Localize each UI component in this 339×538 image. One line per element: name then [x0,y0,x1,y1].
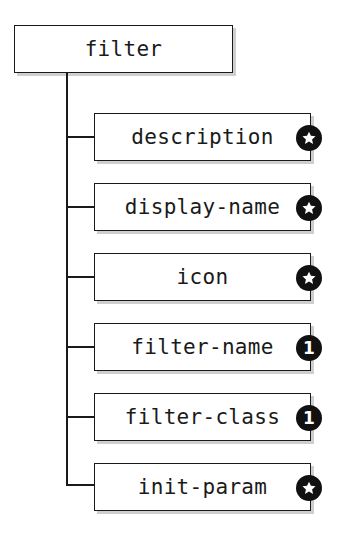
child-node-description: description [94,113,311,161]
branch-connector [66,136,94,138]
branch-connector [66,276,94,278]
child-node-display-name: display-name [94,183,311,231]
child-node-icon: icon [94,253,311,301]
star-badge-icon [296,195,322,221]
child-node-label: icon [177,265,229,289]
child-node-label: display-name [125,195,280,219]
child-node-label: init-param [138,475,267,499]
child-node-label: filter-name [131,335,273,359]
root-node-filter: filter [14,25,233,73]
branch-connector [66,206,94,208]
tree-trunk-line [66,73,68,486]
root-node-label: filter [85,37,163,61]
star-badge-icon [296,125,322,151]
one-badge-icon: 1 [296,405,322,431]
one-badge-icon: 1 [296,335,322,361]
child-node-init-param: init-param [94,463,311,511]
child-node-filter-class: filter-class [94,393,311,441]
branch-connector [66,416,94,418]
child-node-label: description [131,125,273,149]
badge-number: 1 [303,410,315,427]
branch-connector [66,484,94,486]
child-node-label: filter-class [125,405,280,429]
branch-connector [66,346,94,348]
badge-number: 1 [303,340,315,357]
star-badge-icon [296,265,322,291]
star-badge-icon [296,475,322,501]
child-node-filter-name: filter-name [94,323,311,371]
